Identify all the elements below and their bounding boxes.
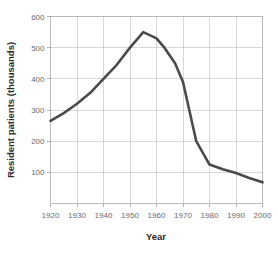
- x-axis-title: Year: [146, 231, 166, 242]
- y-tick-label: 100: [31, 168, 45, 177]
- x-tick-label: 1930: [68, 211, 86, 220]
- x-tick-label: 1950: [121, 211, 139, 220]
- y-tick-label: 500: [31, 44, 45, 53]
- y-tick-label: 600: [31, 13, 45, 22]
- y-tick-label: 200: [31, 137, 45, 146]
- x-tick-label: 1990: [227, 211, 245, 220]
- y-axis-title: Resident patients (thousands): [5, 42, 16, 178]
- y-tick-label: 300: [31, 106, 45, 115]
- x-tick-label: 1940: [95, 211, 113, 220]
- x-tick-label: 1960: [148, 211, 166, 220]
- x-tick-label: 1980: [201, 211, 219, 220]
- line-chart-svg: 100200300400500600 192019301940195019601…: [0, 0, 278, 254]
- x-tick-label: 1920: [42, 211, 60, 220]
- y-tick-label: 400: [31, 75, 45, 84]
- x-tick-label: 2000: [254, 211, 272, 220]
- x-tick-label: 1970: [174, 211, 192, 220]
- chart-figure: 100200300400500600 192019301940195019601…: [0, 0, 278, 254]
- x-tick-labels-group: 192019301940195019601970198019902000: [42, 211, 272, 220]
